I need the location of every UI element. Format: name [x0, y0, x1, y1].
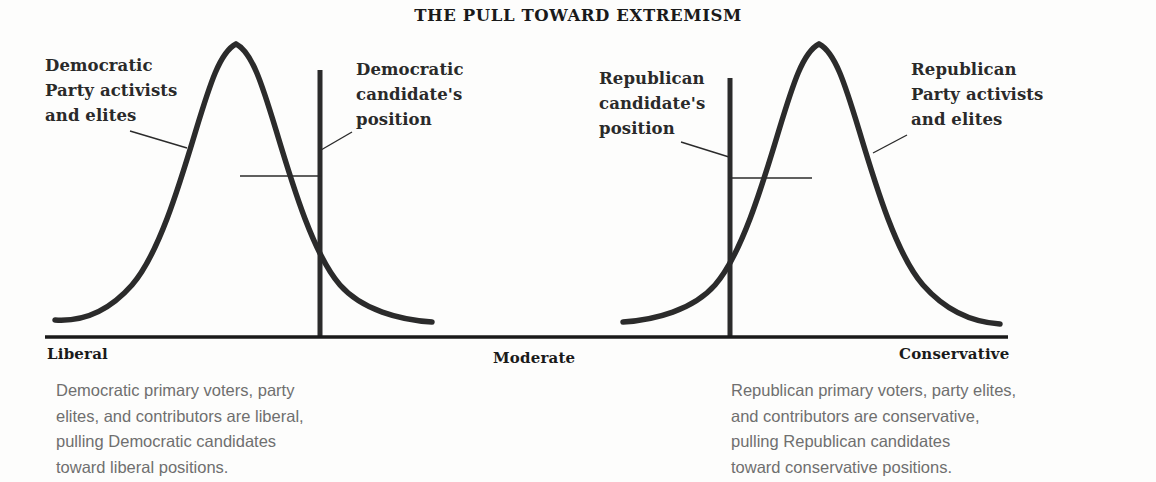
infographic-root: THE PULL TOWARD EXTREMISM Democratic Par… [0, 0, 1156, 482]
callout-republican-activists: Republican Party activists and elites [911, 57, 1044, 132]
axis-label-moderate: Moderate [493, 349, 575, 367]
axis-label-liberal: Liberal [47, 345, 108, 363]
democratic-candidate-leader-line [321, 132, 352, 150]
callout-democratic-candidate: Democratic candidate's position [356, 57, 464, 132]
republican-activists-leader-line [873, 135, 907, 153]
axis-label-conservative: Conservative [899, 345, 1009, 363]
republican-candidate-leader-line [681, 142, 729, 157]
democratic-activists-leader-line [130, 131, 187, 148]
caption-republican: Republican primary voters, party elites,… [731, 378, 1131, 480]
callout-democratic-activists: Democratic Party activists and elites [45, 53, 178, 128]
caption-democratic: Democratic primary voters, party elites,… [56, 378, 386, 480]
callout-republican-candidate: Republican candidate's position [599, 66, 705, 141]
